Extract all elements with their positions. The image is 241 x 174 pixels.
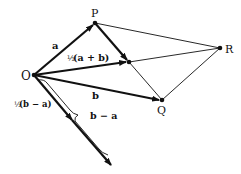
label-P: P — [91, 7, 99, 20]
label-b: b — [92, 90, 99, 101]
point-Q — [160, 98, 165, 103]
point-P — [93, 21, 98, 26]
vector-b-minus-a — [72, 120, 111, 165]
point-O — [32, 73, 37, 78]
label-half-b-minus-a: (b − a) — [19, 99, 52, 109]
vector-diagram: O P R Q a b ½ (a + b) b − a ½ (b − a) — [0, 0, 241, 174]
label-a: a — [52, 40, 59, 51]
point-R — [218, 46, 223, 51]
label-Q: Q — [157, 104, 166, 117]
label-half-a-plus-b: (a + b) — [73, 52, 109, 63]
label-R: R — [225, 43, 234, 56]
point-M — [127, 60, 132, 65]
label-b-minus-a: b − a — [90, 110, 117, 121]
label-O: O — [21, 69, 31, 83]
